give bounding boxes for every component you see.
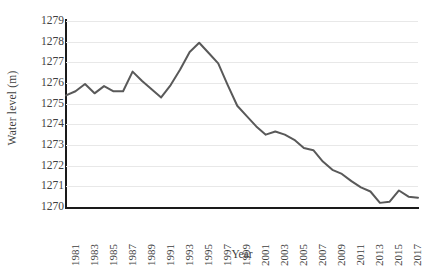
y-axis-tick-label: 1270 bbox=[26, 201, 64, 213]
water-level-line bbox=[66, 43, 418, 203]
x-axis-tick-labels: 1981198319851987198919911993199519971999… bbox=[66, 211, 418, 247]
x-axis-line bbox=[65, 207, 419, 209]
y-axis-tick-label: 1274 bbox=[26, 119, 64, 131]
y-axis-tick-label: 1271 bbox=[26, 181, 64, 193]
x-axis-title: Year bbox=[66, 248, 418, 260]
y-axis-tick-labels: 1270127112721273127412751276127712781279 bbox=[26, 14, 64, 208]
y-axis-tick-label: 1275 bbox=[26, 98, 64, 110]
y-axis-tick-label: 1272 bbox=[26, 160, 64, 172]
y-axis-tick-label: 1277 bbox=[26, 57, 64, 69]
y-axis-tick-label: 1276 bbox=[26, 77, 64, 89]
y-axis-tick-label: 1279 bbox=[26, 15, 64, 27]
plot-area bbox=[66, 21, 418, 207]
y-axis-title-label: Water level (m) bbox=[6, 70, 18, 145]
y-axis-title: Water level (m) bbox=[0, 0, 24, 215]
y-axis-tick-label: 1273 bbox=[26, 139, 64, 151]
series-layer bbox=[66, 21, 418, 207]
water-level-line-chart: Water level (m) 127012711272127312741275… bbox=[0, 0, 436, 270]
y-axis-tick-label: 1278 bbox=[26, 36, 64, 48]
